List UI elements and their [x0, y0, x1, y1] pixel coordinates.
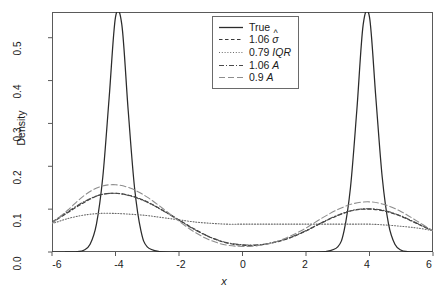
legend-label-sigma-hat: 1.06 ^σ — [249, 34, 279, 45]
legend: True 1.06 ^σ 0.79 IQR 1.06 A 0.9 A — [212, 16, 299, 89]
legend-item-iqr: 0.79 IQR — [218, 46, 291, 59]
legend-key-solid-icon — [218, 22, 244, 33]
series-line-3 — [52, 193, 433, 245]
legend-item-09a: 0.9 A — [218, 71, 291, 84]
y-tick-label-1: 0.1 — [12, 204, 23, 238]
a-glyph-1: A — [272, 59, 279, 71]
legend-item-true: True — [218, 21, 291, 34]
legend-key-dashdot-icon — [218, 60, 244, 71]
x-tick-label-1: -4 — [104, 258, 134, 270]
legend-value-3: 1.06 — [249, 59, 269, 71]
x-tick-label-6: 6 — [414, 258, 444, 270]
hat-accent-icon: ^ — [272, 28, 278, 39]
x-tick-label-5: 4 — [352, 258, 382, 270]
x-tick-label-4: 2 — [290, 258, 320, 270]
legend-value-4: 0.9 — [249, 71, 264, 83]
legend-value-1: 1.06 — [249, 33, 269, 45]
y-tick-label-2: 0.2 — [12, 161, 23, 195]
series-line-2 — [52, 213, 433, 230]
iqr-glyph: IQR — [272, 46, 291, 58]
legend-label-true: True — [249, 22, 270, 33]
legend-item-106a: 1.06 A — [218, 59, 291, 72]
x-tick-label-2: -2 — [166, 258, 196, 270]
y-tick-label-4: 0.4 — [12, 75, 23, 109]
density-plot-figure: Density 0.0 0.1 0.2 0.3 0.4 0.5 -6 -4 -2… — [0, 0, 448, 302]
legend-label-iqr: 0.79 IQR — [249, 47, 291, 58]
x-axis-title: x — [0, 275, 448, 287]
y-tick-label-3: 0.3 — [12, 118, 23, 152]
legend-key-dotted-icon — [218, 47, 244, 58]
legend-key-dashed-icon — [218, 34, 244, 45]
series-line-1 — [52, 193, 433, 245]
legend-key-longdash-icon — [218, 72, 244, 83]
x-tick-label-0: -6 — [42, 258, 72, 270]
legend-item-sigma-hat: 1.06 ^σ — [218, 34, 291, 47]
legend-label-106a: 1.06 A — [249, 60, 279, 71]
y-tick-label-5: 0.5 — [12, 32, 23, 66]
x-tick-label-3: 0 — [228, 258, 258, 270]
legend-value-2: 0.79 — [249, 46, 269, 58]
legend-label-09a: 0.9 A — [249, 72, 274, 83]
a-glyph-2: A — [267, 71, 274, 83]
sigma-hat-symbol: ^σ — [272, 34, 278, 45]
